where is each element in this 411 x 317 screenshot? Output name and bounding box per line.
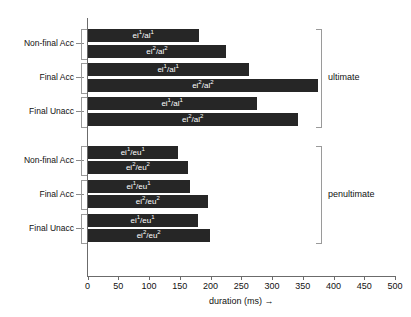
x-tick-label: 350 [288,281,318,291]
category-label: Non-final Acc [2,38,74,48]
bar [88,180,190,193]
category-bracket [81,29,87,60]
bar [88,45,227,58]
bar [88,195,209,208]
x-tick-label: 100 [134,281,164,291]
group-bracket [316,29,322,128]
x-tick [272,276,273,280]
category-label: Final Acc [2,72,74,82]
bar [88,113,298,126]
group-label: penultimate [328,189,375,199]
x-tick [88,276,89,280]
bar [88,161,189,174]
bar-chart: 050100150200250300350400450500 Non-final… [0,0,411,317]
group-bracket [316,146,322,245]
category-bracket [81,146,87,177]
bar [88,79,319,92]
category-label: Non-final Acc [2,155,74,165]
category-bracket [81,214,87,245]
bar [88,29,199,42]
x-tick [395,276,396,280]
bar [88,146,178,159]
x-tick-label: 50 [103,281,133,291]
x-tick-label: 450 [349,281,379,291]
x-tick [180,276,181,280]
x-tick [364,276,365,280]
category-label: Final Acc [2,189,74,199]
x-tick-label: 0 [73,281,103,291]
group-label: ultimate [328,72,360,82]
x-tick-label: 400 [319,281,349,291]
bar [88,229,210,242]
bar [88,97,257,110]
x-tick [334,276,335,280]
category-label: Final Unacc [2,106,74,116]
x-tick [149,276,150,280]
x-tick [118,276,119,280]
x-axis-title: duration (ms) → [181,296,301,307]
x-tick [303,276,304,280]
bar [88,214,198,227]
category-bracket [81,97,87,128]
category-bracket [81,180,87,211]
x-tick [211,276,212,280]
x-tick [241,276,242,280]
x-tick-label: 250 [226,281,256,291]
x-tick-label: 300 [257,281,287,291]
category-bracket [81,63,87,94]
x-tick-label: 150 [165,281,195,291]
x-tick-label: 200 [196,281,226,291]
x-tick-label: 500 [380,281,410,291]
category-label: Final Unacc [2,223,74,233]
bar [88,63,249,76]
